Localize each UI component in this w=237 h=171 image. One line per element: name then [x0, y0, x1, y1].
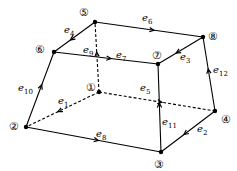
node-dot-6: [52, 50, 56, 54]
edge-label-e12: e12: [213, 65, 228, 78]
edge-label-e7: e7: [116, 50, 126, 63]
node-label-7: ⑦: [152, 50, 162, 61]
node-dot-7: [156, 62, 160, 66]
edge-label-e4: e4: [64, 25, 74, 38]
graph-diagram: e1e2e3e4e5e6e7e8e9e10e11e12①②③④⑤⑥⑦⑧: [0, 0, 237, 171]
node-label-2: ②: [9, 121, 19, 132]
edge-label-e9: e9: [83, 45, 93, 58]
node-dot-5: [93, 20, 97, 24]
node-dot-4: [213, 109, 217, 113]
node-label-5: ⑤: [79, 7, 89, 18]
edge-e7: [54, 52, 158, 64]
edge-label-e5: e5: [140, 83, 150, 96]
edge-label-e3: e3: [180, 52, 190, 65]
node-dot-8: [201, 35, 205, 39]
edge-label-e2: e2: [197, 124, 207, 137]
edge-e11: [158, 64, 161, 152]
node-label-3: ③: [154, 159, 164, 170]
node-label-1: ①: [86, 82, 96, 93]
edge-label-e1: e1: [58, 96, 68, 109]
node-label-4: ④: [221, 114, 231, 125]
edge-label-e11: e11: [162, 117, 177, 130]
edge-e8: [26, 127, 161, 152]
edge-e5: [99, 92, 215, 111]
edge-label-e8: e8: [96, 129, 106, 142]
edge-label-e10: e10: [18, 83, 33, 96]
node-dot-3: [159, 150, 163, 154]
node-label-6: ⑥: [35, 44, 45, 55]
edge-label-e6: e6: [142, 13, 152, 26]
node-dot-1: [97, 90, 101, 94]
node-dot-2: [24, 125, 28, 129]
edges-canvas: [0, 0, 237, 171]
node-label-8: ⑧: [208, 31, 218, 42]
